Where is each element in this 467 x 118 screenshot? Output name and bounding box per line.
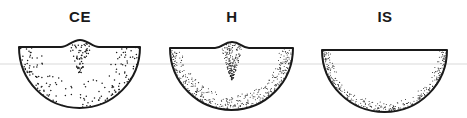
panel-h — [170, 42, 293, 110]
panel-label-is: IS — [355, 7, 415, 27]
hemisphere-outline — [322, 50, 447, 112]
stipple-dots — [170, 42, 293, 110]
figure-canvas: CE H IS — [0, 0, 467, 118]
stipple-dots — [19, 40, 139, 108]
stipple-dots — [322, 50, 447, 113]
panel-label-ce: CE — [50, 7, 110, 27]
panel-label-h: H — [202, 7, 262, 27]
panel-is — [322, 50, 447, 113]
panel-ce — [19, 40, 140, 108]
